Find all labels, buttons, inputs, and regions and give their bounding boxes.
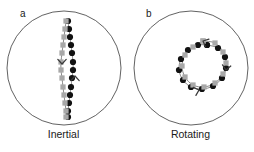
data-point — [59, 50, 64, 55]
data-point — [185, 47, 191, 53]
data-point — [61, 92, 66, 97]
data-point — [60, 42, 65, 47]
data-point — [222, 54, 228, 60]
data-point — [69, 50, 75, 56]
data-point — [62, 26, 67, 31]
data-point — [61, 34, 66, 39]
data-point — [190, 44, 195, 49]
data-point — [215, 45, 221, 51]
data-point — [70, 59, 76, 65]
data-point — [182, 74, 187, 79]
panel-caption-rotating: Rotating — [127, 129, 254, 140]
data-point — [220, 49, 225, 54]
data-point — [201, 84, 206, 89]
data-point — [223, 60, 228, 65]
data-point — [195, 42, 201, 48]
panel-inertial: a Inertial — [0, 0, 127, 152]
domain-circle — [134, 11, 248, 125]
data-point — [63, 108, 68, 113]
data-point — [63, 114, 68, 119]
data-point — [212, 40, 217, 45]
data-point — [190, 82, 195, 87]
data-point — [70, 67, 76, 73]
data-point — [60, 84, 65, 89]
data-point — [67, 34, 73, 40]
data-point — [62, 100, 67, 105]
data-point — [58, 67, 63, 72]
data-point — [68, 42, 74, 48]
data-point — [68, 84, 74, 90]
panel-rotating: b Rotating — [127, 0, 254, 152]
data-point — [67, 92, 73, 98]
data-point — [182, 52, 187, 57]
panel-caption-inertial: Inertial — [0, 129, 127, 140]
data-point — [220, 71, 225, 76]
data-point — [179, 63, 184, 68]
panel-letter-b: b — [146, 9, 152, 19]
trajectory-comparison-figure: a Inertial b Rotating — [0, 0, 254, 152]
panel-letter-a: a — [20, 9, 26, 19]
data-point — [212, 80, 217, 85]
data-point — [59, 75, 64, 80]
data-point — [63, 18, 68, 23]
